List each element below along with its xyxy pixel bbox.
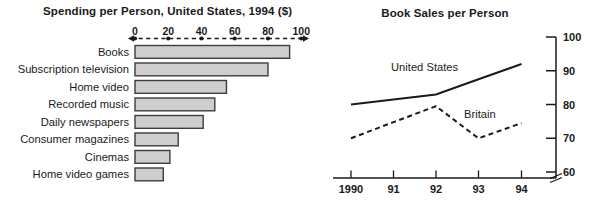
series-label-britain: Britain [464, 108, 496, 120]
series-line-britain [351, 106, 522, 138]
y-axis-tick-label: 80 [563, 99, 575, 111]
axis-tick-dot [199, 36, 203, 40]
bar-category-label: Home video games [33, 168, 130, 180]
bar [135, 151, 170, 164]
bar [135, 81, 226, 94]
axis-tick-dot [166, 36, 170, 40]
axis-tick-dot [233, 36, 237, 40]
bar-category-label: Recorded music [48, 98, 129, 110]
bar-axis-tick-label: 20 [162, 25, 174, 37]
x-axis-tick-label: 91 [387, 183, 399, 195]
axis-tick-dot [266, 36, 270, 40]
bar-axis-tick-label: 100 [292, 25, 310, 37]
bar-category-label: Books [98, 46, 129, 58]
bar-axis-tick-label: 80 [262, 25, 274, 37]
bar [135, 168, 163, 181]
figure: Spending per Person, United States, 1994… [0, 0, 595, 206]
y-axis-tick-label: 70 [563, 132, 575, 144]
bar-axis-tick-label: 40 [196, 25, 208, 37]
bar-category-label: Cinemas [85, 151, 130, 163]
x-axis-tick-label: 1990 [339, 183, 363, 195]
series-label-united-states: United States [391, 61, 459, 73]
x-axis-tick-label: 94 [515, 183, 528, 195]
bar [135, 98, 215, 111]
bar [135, 63, 268, 76]
axis-tick-dot [133, 36, 137, 40]
bar-category-label: Daily newspapers [41, 116, 130, 128]
bar [135, 133, 178, 146]
bar-category-label: Consumer magazines [20, 133, 129, 145]
bar [135, 46, 290, 59]
bar-axis-tick-label: 60 [229, 25, 241, 37]
y-axis-tick-label: 100 [563, 31, 581, 43]
bar-axis-tick-label: 0 [132, 25, 138, 37]
x-axis-tick-label: 92 [430, 183, 442, 195]
charts-canvas: 020406080100BooksSubscription television… [0, 0, 595, 206]
x-axis-tick-label: 93 [472, 183, 484, 195]
bar-category-label: Home video [69, 81, 129, 93]
bar-category-label: Subscription television [18, 63, 129, 75]
y-axis-tick-label: 90 [563, 65, 575, 77]
bar [135, 116, 203, 129]
y-axis-tick-label: 60 [563, 166, 575, 178]
axis-tick-dot [299, 36, 303, 40]
